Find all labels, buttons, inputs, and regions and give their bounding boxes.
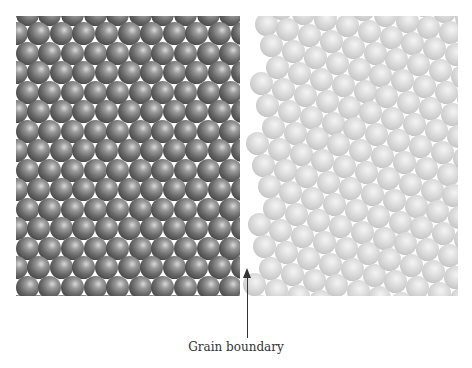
atom-sphere (16, 276, 39, 297)
atom-sphere (197, 276, 220, 297)
atom-sphere (174, 276, 197, 297)
atom-sphere (439, 21, 458, 44)
atom-sphere (438, 244, 458, 267)
atom-sphere (336, 16, 359, 37)
atom-sphere (129, 276, 152, 297)
right-grain-light (236, 16, 458, 296)
left-grain-dark (16, 16, 240, 296)
atom-sphere (441, 103, 458, 126)
atom-sphere (255, 16, 278, 36)
arrow-line (247, 276, 248, 338)
atom-sphere (84, 276, 107, 297)
atom-sphere (106, 276, 129, 297)
atom-sphere (61, 276, 84, 297)
atom-sphere (450, 288, 458, 296)
atom-sphere (437, 163, 458, 186)
grain-boundary-label: Grain boundary (0, 340, 472, 354)
